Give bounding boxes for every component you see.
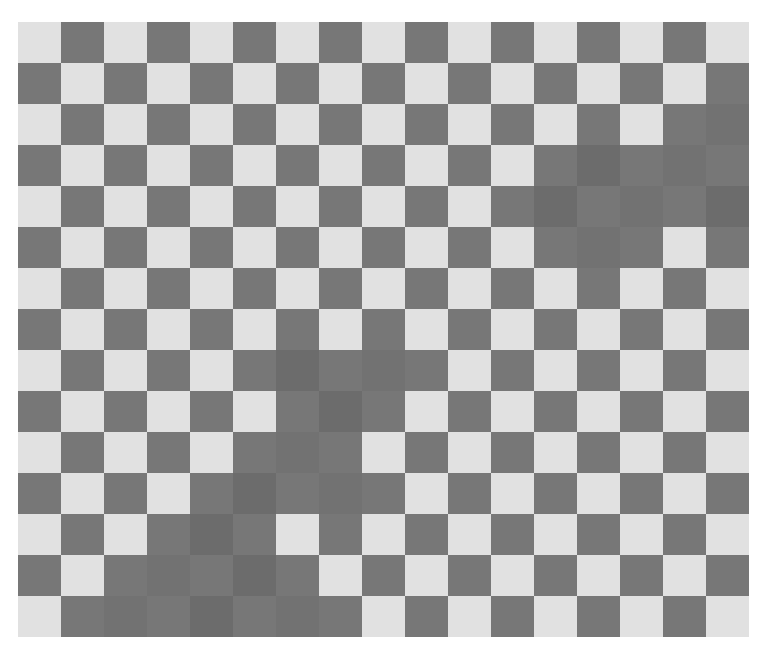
board-cell-r12-c15[interactable] xyxy=(663,514,706,555)
board-cell-r5-c5[interactable] xyxy=(233,227,276,268)
board-cell-r4-c15[interactable] xyxy=(663,186,706,227)
board-cell-r14-c5[interactable] xyxy=(233,596,276,637)
board-cell-r12-c8[interactable] xyxy=(362,514,405,555)
board-cell-r8-c10[interactable] xyxy=(448,350,491,391)
board-cell-r7-c15[interactable] xyxy=(663,309,706,350)
board-cell-r11-c10[interactable] xyxy=(448,473,491,514)
board-cell-r1-c10[interactable] xyxy=(448,63,491,104)
board-cell-r1-c16[interactable] xyxy=(706,63,749,104)
board-cell-r4-c7[interactable] xyxy=(319,186,362,227)
board-cell-r5-c7[interactable] xyxy=(319,227,362,268)
board-cell-r8-c0[interactable] xyxy=(18,350,61,391)
board-cell-r4-c6[interactable] xyxy=(276,186,319,227)
board-cell-r6-c14[interactable] xyxy=(620,268,663,309)
board-cell-r13-c8[interactable] xyxy=(362,555,405,596)
board-cell-r5-c14[interactable] xyxy=(620,227,663,268)
board-cell-r6-c5[interactable] xyxy=(233,268,276,309)
board-cell-r3-c4[interactable] xyxy=(190,145,233,186)
board-cell-r2-c3[interactable] xyxy=(147,104,190,145)
board-cell-r3-c8[interactable] xyxy=(362,145,405,186)
board-cell-r9-c16[interactable] xyxy=(706,391,749,432)
board-cell-r13-c9[interactable] xyxy=(405,555,448,596)
board-cell-r0-c7[interactable] xyxy=(319,22,362,63)
board-cell-r8-c7[interactable] xyxy=(319,350,362,391)
board-cell-r11-c6[interactable] xyxy=(276,473,319,514)
board-cell-r0-c15[interactable] xyxy=(663,22,706,63)
board-cell-r14-c10[interactable] xyxy=(448,596,491,637)
board-cell-r3-c10[interactable] xyxy=(448,145,491,186)
board-cell-r14-c12[interactable] xyxy=(534,596,577,637)
board-cell-r14-c14[interactable] xyxy=(620,596,663,637)
board-cell-r12-c4[interactable] xyxy=(190,514,233,555)
board-cell-r9-c11[interactable] xyxy=(491,391,534,432)
board-cell-r1-c6[interactable] xyxy=(276,63,319,104)
board-cell-r10-c9[interactable] xyxy=(405,432,448,473)
board-cell-r3-c16[interactable] xyxy=(706,145,749,186)
board-cell-r14-c8[interactable] xyxy=(362,596,405,637)
board-cell-r1-c14[interactable] xyxy=(620,63,663,104)
board-cell-r4-c4[interactable] xyxy=(190,186,233,227)
board-cell-r13-c0[interactable] xyxy=(18,555,61,596)
board-cell-r1-c5[interactable] xyxy=(233,63,276,104)
board-cell-r8-c12[interactable] xyxy=(534,350,577,391)
board-cell-r9-c13[interactable] xyxy=(577,391,620,432)
board-cell-r5-c11[interactable] xyxy=(491,227,534,268)
board-cell-r11-c14[interactable] xyxy=(620,473,663,514)
board-cell-r3-c11[interactable] xyxy=(491,145,534,186)
board-cell-r2-c14[interactable] xyxy=(620,104,663,145)
board-cell-r9-c7[interactable] xyxy=(319,391,362,432)
board-cell-r12-c0[interactable] xyxy=(18,514,61,555)
board-cell-r0-c14[interactable] xyxy=(620,22,663,63)
board-cell-r1-c12[interactable] xyxy=(534,63,577,104)
board-cell-r13-c16[interactable] xyxy=(706,555,749,596)
board-cell-r11-c12[interactable] xyxy=(534,473,577,514)
board-cell-r1-c2[interactable] xyxy=(104,63,147,104)
board-cell-r2-c7[interactable] xyxy=(319,104,362,145)
board-cell-r8-c6[interactable] xyxy=(276,350,319,391)
board-cell-r5-c0[interactable] xyxy=(18,227,61,268)
board-cell-r0-c11[interactable] xyxy=(491,22,534,63)
board-cell-r12-c13[interactable] xyxy=(577,514,620,555)
board-cell-r13-c7[interactable] xyxy=(319,555,362,596)
board-cell-r7-c7[interactable] xyxy=(319,309,362,350)
board-cell-r7-c16[interactable] xyxy=(706,309,749,350)
board-cell-r5-c15[interactable] xyxy=(663,227,706,268)
board-cell-r12-c14[interactable] xyxy=(620,514,663,555)
board-cell-r6-c8[interactable] xyxy=(362,268,405,309)
board-cell-r0-c3[interactable] xyxy=(147,22,190,63)
board-cell-r2-c4[interactable] xyxy=(190,104,233,145)
board-cell-r14-c9[interactable] xyxy=(405,596,448,637)
board-cell-r8-c14[interactable] xyxy=(620,350,663,391)
board-cell-r11-c16[interactable] xyxy=(706,473,749,514)
board-cell-r5-c1[interactable] xyxy=(61,227,104,268)
board-cell-r0-c13[interactable] xyxy=(577,22,620,63)
board-cell-r4-c9[interactable] xyxy=(405,186,448,227)
board-cell-r5-c2[interactable] xyxy=(104,227,147,268)
board-cell-r3-c3[interactable] xyxy=(147,145,190,186)
board-cell-r3-c1[interactable] xyxy=(61,145,104,186)
board-cell-r4-c10[interactable] xyxy=(448,186,491,227)
board-cell-r3-c14[interactable] xyxy=(620,145,663,186)
board-cell-r8-c15[interactable] xyxy=(663,350,706,391)
board-cell-r13-c15[interactable] xyxy=(663,555,706,596)
board-cell-r1-c1[interactable] xyxy=(61,63,104,104)
board-cell-r1-c0[interactable] xyxy=(18,63,61,104)
board-cell-r9-c1[interactable] xyxy=(61,391,104,432)
board-cell-r14-c7[interactable] xyxy=(319,596,362,637)
board-cell-r10-c6[interactable] xyxy=(276,432,319,473)
board-cell-r11-c13[interactable] xyxy=(577,473,620,514)
board-cell-r4-c13[interactable] xyxy=(577,186,620,227)
board-cell-r5-c13[interactable] xyxy=(577,227,620,268)
board-cell-r11-c4[interactable] xyxy=(190,473,233,514)
board-cell-r4-c0[interactable] xyxy=(18,186,61,227)
board-cell-r11-c0[interactable] xyxy=(18,473,61,514)
board-cell-r6-c15[interactable] xyxy=(663,268,706,309)
board-cell-r11-c3[interactable] xyxy=(147,473,190,514)
board-cell-r3-c6[interactable] xyxy=(276,145,319,186)
board-cell-r14-c4[interactable] xyxy=(190,596,233,637)
board-cell-r5-c4[interactable] xyxy=(190,227,233,268)
board-cell-r14-c11[interactable] xyxy=(491,596,534,637)
board-cell-r13-c4[interactable] xyxy=(190,555,233,596)
board-cell-r6-c13[interactable] xyxy=(577,268,620,309)
board-cell-r10-c15[interactable] xyxy=(663,432,706,473)
